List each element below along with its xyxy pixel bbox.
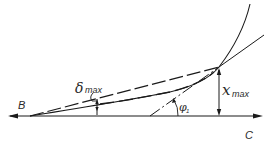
curve-dashed-segment: [100, 72, 214, 104]
arrow-down-icon: [95, 107, 98, 111]
arrow-left-icon: [8, 114, 18, 119]
x-symbol: x: [222, 81, 231, 99]
phi-subscript: 1: [186, 108, 189, 114]
label-b: B: [18, 99, 25, 111]
arrow-down-icon: [217, 109, 221, 116]
arrow-right-icon: [253, 114, 263, 119]
curve: [30, 4, 250, 116]
x-subscript: max: [232, 89, 250, 99]
delta-symbol: δ: [75, 80, 83, 96]
x-max-dimension: [217, 68, 221, 116]
chord-line: [30, 67, 219, 116]
delta-subscript: max: [85, 85, 103, 95]
diagram-canvas: B C δ max x max φ 1: [0, 0, 274, 145]
arrow-up-icon: [95, 99, 98, 104]
delta-max-dimension: [91, 93, 99, 115]
label-x-max: x max: [222, 81, 250, 99]
label-phi-1: φ 1: [179, 101, 189, 114]
label-delta-max: δ max: [75, 80, 103, 96]
axis-line: [8, 114, 263, 119]
tangent-line-upper: [219, 35, 264, 67]
phi-1-angle: [172, 98, 178, 116]
label-c: C: [245, 129, 253, 141]
